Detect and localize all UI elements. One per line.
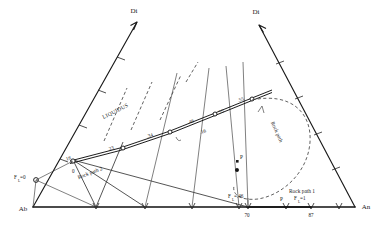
label-layer: Di Di Ab An LIQUIDUS Rock path 2 Rock pa… (0, 0, 390, 231)
fl1-value: =1 (300, 195, 306, 201)
liquidus-tick-6: .55 (237, 95, 245, 103)
rock-path-curve-label: Rock path (270, 120, 285, 143)
base-tick-70: 70 (244, 212, 250, 218)
liquidus-tick-5: .55 (217, 107, 225, 115)
liquidus-tick-0: .18 (64, 154, 72, 162)
fl46-label: F (228, 193, 231, 199)
liquidus-tick-2: .34 (146, 131, 154, 139)
rock-path-1-label: Rock path 1 (289, 188, 315, 194)
fl-zero-label: F (14, 174, 17, 180)
vertex-label-ab: Ab (19, 205, 28, 213)
liquidus-label: LIQUIDUS (101, 102, 129, 120)
liquidus-tick-4: .16 (199, 127, 207, 135)
zero-label: 0 (72, 168, 75, 174)
liquidus-tick-1: .23 (107, 144, 115, 152)
base-tick-87: 87 (308, 212, 314, 218)
fl1-label: F (294, 195, 297, 201)
fl-zero-value: =0 (20, 174, 26, 180)
point-p-upper-label: P (240, 154, 243, 160)
point-p-label: P (280, 196, 283, 202)
vertex-label-an: An (362, 203, 371, 211)
apex-right-label: Di (253, 8, 260, 16)
fl46-value: =.46 (234, 193, 244, 199)
apex-left-label: Di (131, 7, 138, 15)
rock-path-2-label: Rock path 2 (77, 165, 104, 180)
liquidus-tick-3: .46 (187, 117, 195, 125)
phase-diagram-figure: Di Di Ab An LIQUIDUS Rock path 2 Rock pa… (0, 0, 390, 231)
